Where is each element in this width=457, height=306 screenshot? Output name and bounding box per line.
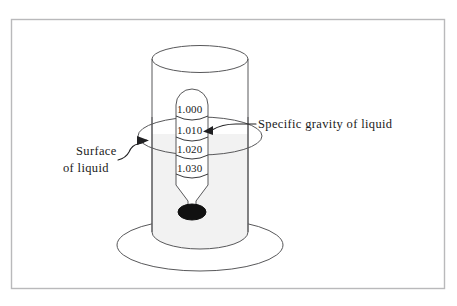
hydrometer-figure: 1.000 1.010 1.020 1.030 Specific gravity… xyxy=(0,0,457,306)
surface-label-line1: Surface xyxy=(76,144,117,158)
scale-reading-1.020: 1.020 xyxy=(177,143,203,155)
scale-reading-1.010: 1.010 xyxy=(177,124,203,136)
hydrometer-bulb xyxy=(178,204,206,220)
figure-canvas: 1.000 1.010 1.020 1.030 Specific gravity… xyxy=(0,0,457,306)
scale-reading-1.000: 1.000 xyxy=(177,103,203,115)
surface-label-line2: of liquid xyxy=(63,161,109,175)
scale-reading-1.030: 1.030 xyxy=(177,162,203,174)
specific-gravity-label: Specific gravity of liquid xyxy=(258,117,393,131)
